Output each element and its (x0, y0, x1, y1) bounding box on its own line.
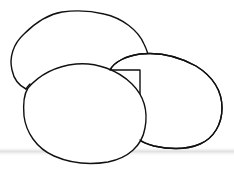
ovals-illustration (0, 0, 234, 174)
drawing-canvas (0, 0, 234, 174)
front-oval (24, 64, 146, 164)
